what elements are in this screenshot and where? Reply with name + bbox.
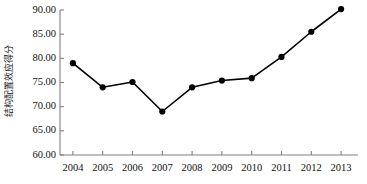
x-axis-ticks [73, 151, 341, 155]
data-point [189, 84, 195, 90]
data-point [219, 77, 225, 83]
line-chart: 结构配置效应得分 90.0085.0080.0075.0070.0065.006… [0, 0, 367, 184]
data-point [278, 54, 284, 60]
plot-area [0, 0, 367, 184]
data-point [159, 108, 165, 114]
y-axis-ticks [60, 10, 64, 155]
data-point [129, 79, 135, 85]
data-point [308, 29, 314, 35]
data-line [73, 9, 341, 111]
data-markers [70, 6, 344, 115]
data-point [70, 60, 76, 66]
data-point [338, 6, 344, 12]
data-point [249, 75, 255, 81]
data-point [100, 84, 106, 90]
